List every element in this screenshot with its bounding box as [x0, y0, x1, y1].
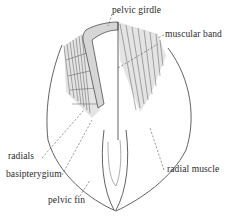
basipterygium-lobe — [108, 140, 121, 186]
right-radials — [118, 22, 166, 112]
label-radials: radials — [8, 152, 34, 162]
fin-inner-right — [116, 130, 128, 210]
label-muscular-band: muscular band — [165, 30, 222, 40]
label-pelvic-girdle: pelvic girdle — [112, 6, 161, 16]
leader-pelvic-fin — [80, 180, 90, 196]
label-pelvic-fin: pelvic fin — [48, 196, 85, 206]
label-radial-muscle: radial muscle — [167, 165, 219, 175]
label-basipterygium: basipterygium — [6, 170, 62, 180]
leader-radials — [42, 110, 84, 158]
leader-basipterygium — [62, 120, 92, 175]
pelvic-fin-diagram: pelvic girdle muscular band radials basi… — [0, 0, 231, 219]
leader-radial-muscle — [150, 128, 164, 170]
